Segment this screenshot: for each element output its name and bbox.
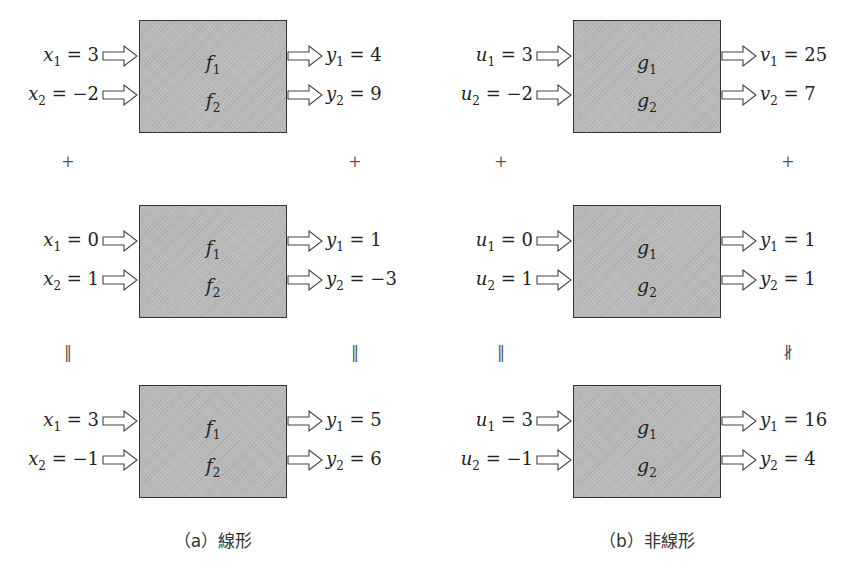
function-label: g2 xyxy=(574,89,720,115)
value: = −2 xyxy=(46,83,99,104)
input-label: u2 = −2 xyxy=(461,84,533,111)
variable: y xyxy=(326,409,336,430)
output-arrow-icon xyxy=(721,45,757,67)
subscript: 1 xyxy=(213,248,221,262)
panel-a: f1f2x1 = 3y1 = 4x2 = −2y2 = 9f1f2x1 = 0y… xyxy=(0,0,426,571)
subscript: 1 xyxy=(336,420,344,434)
value: = 1 xyxy=(778,229,816,250)
function-label: f1 xyxy=(140,416,286,442)
output-label: y2 = 4 xyxy=(760,449,816,476)
value: = 3 xyxy=(61,44,99,65)
variable: x xyxy=(43,44,53,65)
function-label: g1 xyxy=(574,236,720,262)
subscript: 2 xyxy=(38,94,46,108)
value: = 7 xyxy=(778,83,816,104)
subscript: 2 xyxy=(213,466,221,480)
plus-sign: + xyxy=(58,152,78,171)
system-block: g1g2 xyxy=(573,205,721,318)
subscript: 2 xyxy=(38,459,46,473)
function-label: f1 xyxy=(140,236,286,262)
variable: y xyxy=(760,268,770,289)
input-arrow-icon xyxy=(102,45,138,67)
output-arrow-icon xyxy=(721,230,757,252)
value: = 16 xyxy=(778,409,827,430)
subscript: 1 xyxy=(336,240,344,254)
equals-sign: ‖ xyxy=(345,343,365,362)
output-arrow-icon xyxy=(721,410,757,432)
variable: y xyxy=(326,83,336,104)
output-arrow-icon xyxy=(287,84,323,106)
input-arrow-icon xyxy=(536,45,572,67)
input-label: x1 = 3 xyxy=(43,45,99,72)
output-label: y1 = 4 xyxy=(326,45,382,72)
value: = −2 xyxy=(480,83,533,104)
variable: x xyxy=(28,83,38,104)
variable: u xyxy=(476,409,488,430)
value: = 4 xyxy=(778,448,816,469)
output-arrow-icon xyxy=(287,45,323,67)
output-label: y1 = 5 xyxy=(326,410,382,437)
subscript: 1 xyxy=(336,55,344,69)
system-block: f1f2 xyxy=(139,385,287,498)
output-label: y2 = 6 xyxy=(326,449,382,476)
variable: y xyxy=(760,409,770,430)
input-arrow-icon xyxy=(536,269,572,291)
subscript: 2 xyxy=(213,101,221,115)
variable: y xyxy=(760,448,770,469)
subscript: 1 xyxy=(770,240,778,254)
equals-sign: ‖ xyxy=(491,343,511,362)
variable: y xyxy=(760,229,770,250)
caption-b: （b）非線形 xyxy=(547,527,747,552)
subscript: 1 xyxy=(213,63,221,77)
output-arrow-icon xyxy=(287,269,323,291)
value: = −1 xyxy=(480,448,533,469)
value: = 5 xyxy=(344,409,382,430)
variable: v xyxy=(760,44,770,65)
value: = 3 xyxy=(61,409,99,430)
output-arrow-icon xyxy=(721,269,757,291)
subscript: 1 xyxy=(649,248,657,262)
subscript: 1 xyxy=(487,420,495,434)
plus-sign: + xyxy=(345,152,365,171)
value: = 3 xyxy=(495,409,533,430)
subscript: 1 xyxy=(649,63,657,77)
system-block: f1f2 xyxy=(139,205,287,318)
variable: x xyxy=(43,409,53,430)
function-label: g1 xyxy=(574,416,720,442)
subscript: 2 xyxy=(649,286,657,300)
value: = 1 xyxy=(61,268,99,289)
value: = 3 xyxy=(495,44,533,65)
input-label: x1 = 3 xyxy=(43,410,99,437)
subscript: 1 xyxy=(770,420,778,434)
input-label: u2 = 1 xyxy=(476,269,533,296)
subscript: 1 xyxy=(487,240,495,254)
not-equals-sign: ∦ xyxy=(778,343,798,362)
value: = 4 xyxy=(344,44,382,65)
value: = 1 xyxy=(344,229,382,250)
variable: x xyxy=(43,229,53,250)
subscript: 1 xyxy=(770,55,778,69)
plus-sign: + xyxy=(491,152,511,171)
output-label: y2 = −3 xyxy=(326,269,397,296)
variable: x xyxy=(28,448,38,469)
caption-a: （a）線形 xyxy=(113,527,313,552)
output-label: y1 = 16 xyxy=(760,410,827,437)
input-arrow-icon xyxy=(536,449,572,471)
output-label: v1 = 25 xyxy=(760,45,827,72)
variable: u xyxy=(476,44,488,65)
system-block: g1g2 xyxy=(573,385,721,498)
input-arrow-icon xyxy=(102,84,138,106)
output-label: y1 = 1 xyxy=(326,230,382,257)
value: = −3 xyxy=(344,268,397,289)
input-label: x2 = −1 xyxy=(28,449,99,476)
input-arrow-icon xyxy=(536,410,572,432)
subscript: 2 xyxy=(53,279,61,293)
output-label: y2 = 9 xyxy=(326,84,382,111)
subscript: 2 xyxy=(770,459,778,473)
subscript: 2 xyxy=(472,94,480,108)
subscript: 2 xyxy=(770,279,778,293)
subscript: 2 xyxy=(336,279,344,293)
value: = 1 xyxy=(495,268,533,289)
function-label: g2 xyxy=(574,454,720,480)
subscript: 1 xyxy=(53,55,61,69)
